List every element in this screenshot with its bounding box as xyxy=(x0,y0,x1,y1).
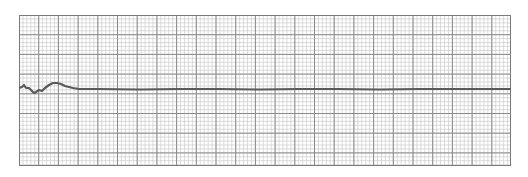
ecg-grid xyxy=(19,15,511,166)
ecg-strip xyxy=(19,15,511,166)
ecg-trace xyxy=(19,83,511,93)
